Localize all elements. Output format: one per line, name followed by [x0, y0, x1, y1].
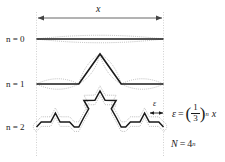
iteration-label-0: n = 0 — [6, 35, 25, 44]
epsilon-equation: ε = ( 1 3 ) n x — [172, 104, 216, 124]
iteration-label-2: n = 2 — [6, 123, 25, 132]
epsilon-eq-denominator: 3 — [191, 114, 200, 123]
epsilon-eq-paren-close: ) — [200, 105, 206, 122]
epsilon-eq-trailing: x — [209, 109, 216, 119]
count-equation: N = 4 n — [171, 139, 196, 149]
curve-2 — [37, 91, 164, 127]
halo-2 — [33, 86, 166, 132]
iteration-1 — [37, 54, 164, 89]
epsilon-eq-fraction: 1 3 — [191, 103, 200, 123]
epsilon-measure-label: ε — [153, 100, 156, 108]
iteration-2 — [33, 86, 166, 132]
epsilon-eq-equals: = — [176, 109, 186, 119]
koch-curve-figure: x n = 0 n = 1 n = 2 ε ε = ( 1 3 ) n x N … — [0, 0, 225, 162]
count-eq-lhs: N — [171, 139, 178, 149]
count-eq-equals: = — [178, 139, 188, 149]
count-eq-exponent: n — [192, 141, 195, 148]
iteration-0 — [37, 35, 164, 43]
curve-1 — [37, 54, 164, 84]
width-label: x — [96, 4, 100, 14]
iteration-label-1: n = 1 — [6, 80, 25, 89]
epsilon-eq-numerator: 1 — [191, 103, 200, 112]
